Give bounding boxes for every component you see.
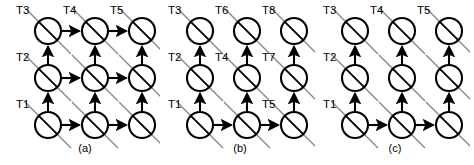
processor-node xyxy=(35,18,61,44)
time-step-labels: T1T5T2T4T7T3T6T8 xyxy=(168,4,275,110)
processor-nodes xyxy=(342,18,462,138)
time-label-t3: T3 xyxy=(323,4,336,16)
processor-nodes xyxy=(187,18,307,138)
time-label-t2: T2 xyxy=(16,51,29,63)
processor-node xyxy=(389,18,415,44)
processor-node xyxy=(234,18,260,44)
processor-node xyxy=(82,112,108,138)
processor-node xyxy=(35,65,61,91)
panel-caption-c: (c) xyxy=(389,142,402,154)
panel-c: T1T2T3T4T5(c) xyxy=(310,0,470,165)
panel-a: T1T2T3T4T5(a) xyxy=(0,0,160,165)
processor-node xyxy=(389,65,415,91)
processor-node xyxy=(281,18,307,44)
time-label-t4: T4 xyxy=(215,51,229,63)
processor-node xyxy=(436,112,462,138)
processor-node xyxy=(436,65,462,91)
time-label-t5: T5 xyxy=(262,98,275,110)
time-label-t1: T1 xyxy=(16,98,29,110)
time-label-t5: T5 xyxy=(417,4,430,16)
time-label-t2: T2 xyxy=(323,51,336,63)
time-label-t7: T7 xyxy=(262,51,275,63)
time-label-t4: T4 xyxy=(63,4,77,16)
time-label-t3: T3 xyxy=(16,4,29,16)
panel-b: T1T5T2T4T7T3T6T8(b) xyxy=(155,0,315,165)
processor-node xyxy=(234,112,260,138)
time-label-t5: T5 xyxy=(110,4,123,16)
processor-node xyxy=(129,18,155,44)
processor-node xyxy=(82,65,108,91)
time-step-labels: T1T2T3T4T5 xyxy=(323,4,430,110)
time-label-t1: T1 xyxy=(323,98,336,110)
figure-canvas: T1T2T3T4T5(a)T1T5T2T4T7T3T6T8(b)T1T2T3T4… xyxy=(0,0,474,165)
processor-node xyxy=(129,65,155,91)
processor-node xyxy=(187,65,213,91)
processor-node xyxy=(187,18,213,44)
processor-node xyxy=(35,112,61,138)
processor-node xyxy=(342,65,368,91)
panel-caption-a: (a) xyxy=(78,142,91,154)
processor-node xyxy=(281,112,307,138)
time-label-t3: T3 xyxy=(168,4,181,16)
processor-nodes xyxy=(35,18,155,138)
processor-node xyxy=(129,112,155,138)
processor-node xyxy=(342,18,368,44)
time-label-t8: T8 xyxy=(262,4,275,16)
processor-node xyxy=(187,112,213,138)
time-label-t4: T4 xyxy=(370,4,384,16)
processor-node xyxy=(436,18,462,44)
time-label-t2: T2 xyxy=(168,51,181,63)
time-label-t6: T6 xyxy=(215,4,228,16)
processor-node xyxy=(82,18,108,44)
time-label-t1: T1 xyxy=(168,98,181,110)
processor-node xyxy=(389,112,415,138)
processor-node xyxy=(234,65,260,91)
processor-node xyxy=(281,65,307,91)
time-step-labels: T1T2T3T4T5 xyxy=(16,4,123,110)
panel-caption-b: (b) xyxy=(233,142,246,154)
processor-node xyxy=(342,112,368,138)
